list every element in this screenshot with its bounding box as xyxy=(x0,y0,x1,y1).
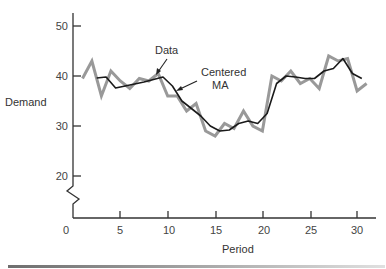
y-tick-30: 30 xyxy=(56,120,68,132)
annotation-ma: MA xyxy=(212,79,229,91)
y-axis-label: Demand xyxy=(5,96,47,108)
x-axis-label: Period xyxy=(222,243,254,255)
x-tick-15: 15 xyxy=(210,224,222,236)
moving-average-chart: 50 40 30 20 Demand 0 5 10 15 20 25 30 Pe… xyxy=(0,0,386,269)
x-tick-5: 5 xyxy=(117,224,123,236)
y-tick-20: 20 xyxy=(56,170,68,182)
annotation-ma-arrow xyxy=(176,81,197,91)
x-tick-0: 0 xyxy=(63,224,69,236)
y-tick-40: 40 xyxy=(56,70,68,82)
y-tick-50: 50 xyxy=(56,20,68,32)
x-tick-30: 30 xyxy=(351,224,363,236)
annotation-data: Data xyxy=(155,44,179,56)
bottom-rule-divider xyxy=(8,265,385,268)
x-tick-20: 20 xyxy=(258,224,270,236)
x-tick-25: 25 xyxy=(305,224,317,236)
x-tick-10: 10 xyxy=(163,224,175,236)
x-axis: 0 5 10 15 20 25 30 xyxy=(63,211,376,236)
annotation-centered: Centered xyxy=(201,66,246,78)
y-axis: 50 40 30 20 xyxy=(56,13,81,218)
annotation-data-arrow xyxy=(156,59,167,75)
